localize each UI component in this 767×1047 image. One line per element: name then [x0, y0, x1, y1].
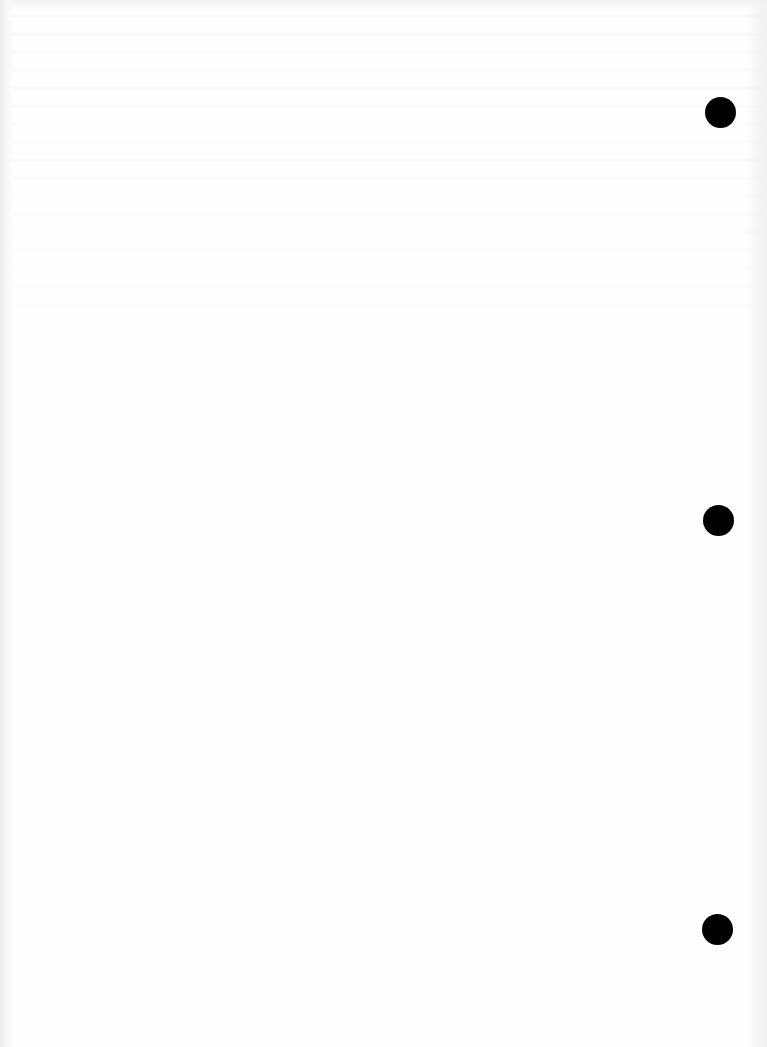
binder-hole-icon [702, 914, 733, 945]
scan-right-edge-shadow [745, 0, 767, 1047]
scanned-page [0, 0, 767, 1047]
binder-hole-icon [705, 97, 736, 128]
scan-left-edge-shadow [0, 0, 14, 1047]
binder-hole-icon [703, 505, 734, 536]
bleed-through-texture [0, 0, 767, 340]
